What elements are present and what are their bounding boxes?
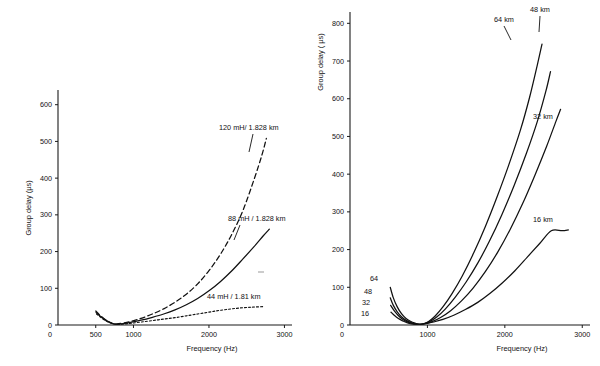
right-annotation-48km: 48 km xyxy=(530,5,550,14)
chart-right-svg: 0100200300400500600700800 0100020003000 … xyxy=(300,0,600,366)
y-tick-label: 600 xyxy=(332,94,344,103)
chart-left-svg: 0100200300400500600 0500100020003000 Gro… xyxy=(0,0,300,366)
left-y-ticks: 0100200300400500600 xyxy=(40,100,58,329)
data-curve-44-mh-1-81-km xyxy=(97,307,264,325)
chart-panel-left: 0100200300400500600 0500100020003000 Gro… xyxy=(0,0,300,366)
right-curves xyxy=(390,44,568,324)
y-tick-label: 0 xyxy=(340,321,344,330)
y-tick-label: 300 xyxy=(332,207,344,216)
y-tick-label: 700 xyxy=(332,57,344,66)
left-leader-120mh xyxy=(249,134,253,152)
left-x-axis-title: Frequency (Hz) xyxy=(187,344,238,353)
x-tick-label: 1000 xyxy=(419,330,435,339)
decorative-speck xyxy=(258,271,264,273)
left-x-ticks: 0500100020003000 xyxy=(48,325,292,339)
x-tick-label: 500 xyxy=(90,330,102,339)
y-tick-label: 200 xyxy=(40,247,52,256)
x-tick-label: 0 xyxy=(340,330,344,339)
left-annotation-120mh: 120 mH/ 1.828 km xyxy=(219,123,279,132)
y-tick-label: 500 xyxy=(40,137,52,146)
y-tick-label: 200 xyxy=(332,245,344,254)
data-curve-16-km xyxy=(391,230,568,325)
data-curve-88-mh-1-828-km xyxy=(96,229,269,324)
y-tick-label: 400 xyxy=(40,174,52,183)
x-tick-label: 3000 xyxy=(574,330,590,339)
x-tick-label: 0 xyxy=(48,330,52,339)
right-x-ticks: 0100020003000 xyxy=(340,325,590,339)
x-tick-label: 2000 xyxy=(497,330,513,339)
right-leftlabel-64: 64 xyxy=(370,274,378,283)
left-annotation-44mh: 44 mH / 1.81 km xyxy=(207,292,261,301)
right-x-axis-title: Frequency (Hz) xyxy=(497,344,548,353)
x-tick-label: 2000 xyxy=(201,330,217,339)
right-leader-64km xyxy=(504,26,511,40)
right-y-ticks: 0100200300400500600700800 xyxy=(332,19,350,330)
right-leftlabel-48: 48 xyxy=(364,287,372,296)
y-tick-label: 100 xyxy=(40,284,52,293)
figure-group-delay-charts: 0100200300400500600 0500100020003000 Gro… xyxy=(0,0,600,366)
right-leftlabel-16: 16 xyxy=(361,309,369,318)
y-tick-label: 600 xyxy=(40,100,52,109)
y-tick-label: 800 xyxy=(332,19,344,28)
right-leader-48km xyxy=(539,16,540,32)
x-tick-label: 3000 xyxy=(276,330,292,339)
left-y-axis-title: Group delay (µs) xyxy=(24,180,33,235)
y-tick-label: 400 xyxy=(332,170,344,179)
x-tick-label: 1000 xyxy=(125,330,141,339)
right-annotation-16km: 16 km xyxy=(533,215,553,224)
y-tick-label: 100 xyxy=(332,283,344,292)
right-leftlabel-32: 32 xyxy=(362,298,370,307)
y-tick-label: 500 xyxy=(332,132,344,141)
chart-panel-right: 0100200300400500600700800 0100020003000 … xyxy=(300,0,600,366)
left-annotation-88mh: 88 mH / 1.828 km xyxy=(228,214,286,223)
y-tick-label: 300 xyxy=(40,210,52,219)
right-y-axis-title: Group delay ( µs) xyxy=(316,33,325,90)
right-annotation-64km: 64 km xyxy=(494,15,514,24)
y-tick-label: 0 xyxy=(48,321,52,330)
right-annotation-32km: 32 km xyxy=(533,112,553,121)
right-axes xyxy=(350,12,590,325)
